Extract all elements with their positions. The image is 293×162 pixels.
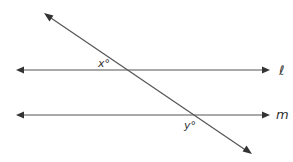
arrowhead-right-icon [262,112,270,119]
arrowhead-right-icon [262,67,270,74]
parallel-lines-diagram: ℓ m x° y° [0,0,293,162]
angle-y-label: y° [183,119,196,132]
line-m: m [16,107,289,122]
arrowhead-left-icon [16,67,24,74]
line-l: ℓ [16,63,284,78]
arrowhead-lower-right-icon [243,146,252,154]
angle-x-label: x° [97,57,110,70]
line-m-label: m [276,107,289,122]
line-l-label: ℓ [278,63,284,78]
transversal [44,13,252,154]
arrowhead-left-icon [16,112,24,119]
arrowhead-upper-left-icon [44,13,53,21]
